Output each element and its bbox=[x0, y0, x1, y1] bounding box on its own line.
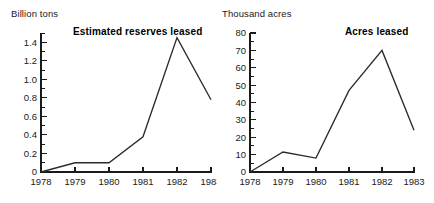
y-tick-label: 60 bbox=[235, 62, 246, 73]
x-tick-label: 1982 bbox=[371, 176, 392, 187]
x-tick-label: 1980 bbox=[98, 176, 119, 187]
y-tick-label: 80 bbox=[235, 27, 246, 38]
x-tick-label: 1983 bbox=[403, 176, 424, 187]
x-tick-label: 1978 bbox=[239, 176, 260, 187]
x-tick-label: 1983 bbox=[200, 176, 217, 187]
x-tick-label: 1981 bbox=[132, 176, 153, 187]
figure-two-line-charts: Billion tons Estimated reserves leased 0… bbox=[0, 0, 434, 203]
y-tick-label: 0.2 bbox=[24, 148, 37, 159]
x-tick-label: 1980 bbox=[305, 176, 326, 187]
y-tick-label: 10 bbox=[235, 149, 246, 160]
y-tick-label: 0.4 bbox=[24, 129, 37, 140]
x-tick-label: 1979 bbox=[64, 176, 85, 187]
chart-panel-acres-leased: Thousand acres Acres leased 010203040506… bbox=[217, 0, 434, 203]
x-tick-label: 1981 bbox=[338, 176, 359, 187]
data-series-line bbox=[41, 38, 211, 172]
y-tick-label: 40 bbox=[235, 97, 246, 108]
y-tick-label: 50 bbox=[235, 80, 246, 91]
x-tick-label: 1979 bbox=[272, 176, 293, 187]
y-tick-label: 0.8 bbox=[24, 92, 37, 103]
chart-panel-estimated-reserves: Billion tons Estimated reserves leased 0… bbox=[0, 0, 217, 203]
plot-area-left: 00.20.40.60.81.01.21.4197819791980198119… bbox=[0, 0, 217, 203]
x-tick-label: 1978 bbox=[30, 176, 51, 187]
y-tick-label: 30 bbox=[235, 114, 246, 125]
data-series-line bbox=[250, 50, 414, 172]
y-tick-label: 20 bbox=[235, 132, 246, 143]
y-tick-label: 70 bbox=[235, 45, 246, 56]
plot-area-right: 0102030405060708019781979198019811982198… bbox=[217, 0, 434, 203]
y-tick-label: 1.2 bbox=[24, 55, 37, 66]
axis-spine bbox=[250, 33, 415, 172]
y-tick-label: 1.0 bbox=[24, 74, 37, 85]
y-tick-label: 1.4 bbox=[24, 37, 37, 48]
y-tick-label: 0.6 bbox=[24, 111, 37, 122]
x-tick-label: 1982 bbox=[166, 176, 187, 187]
